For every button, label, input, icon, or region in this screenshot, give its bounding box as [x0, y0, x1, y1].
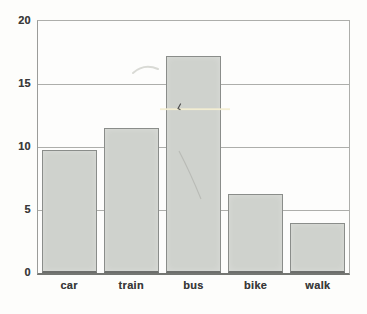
- y-axis-tick-label: 0: [25, 266, 31, 278]
- plot-area: [37, 20, 350, 275]
- y-axis-tick-label: 5: [25, 203, 31, 215]
- y-axis-tick-label: 10: [18, 140, 31, 152]
- x-axis-label-bus: bus: [162, 279, 224, 291]
- bar-car: [42, 150, 97, 273]
- x-axis-label-car: car: [38, 279, 100, 291]
- scanned-bar-chart: 05101520 cartrainbusbikewalk: [0, 0, 367, 314]
- y-axis-tick-label: 15: [18, 77, 31, 89]
- bar-bus: [166, 56, 221, 273]
- x-axis-label-train: train: [100, 279, 162, 291]
- x-axis-labels: cartrainbusbikewalk: [38, 279, 349, 293]
- bar-bike: [228, 194, 283, 273]
- y-axis-tick-label: 20: [18, 14, 31, 26]
- bar-walk: [290, 223, 345, 273]
- y-axis-labels: 05101520: [0, 20, 31, 272]
- x-axis-label-bike: bike: [225, 279, 287, 291]
- x-axis-label-walk: walk: [287, 279, 349, 291]
- bar-train: [104, 128, 159, 273]
